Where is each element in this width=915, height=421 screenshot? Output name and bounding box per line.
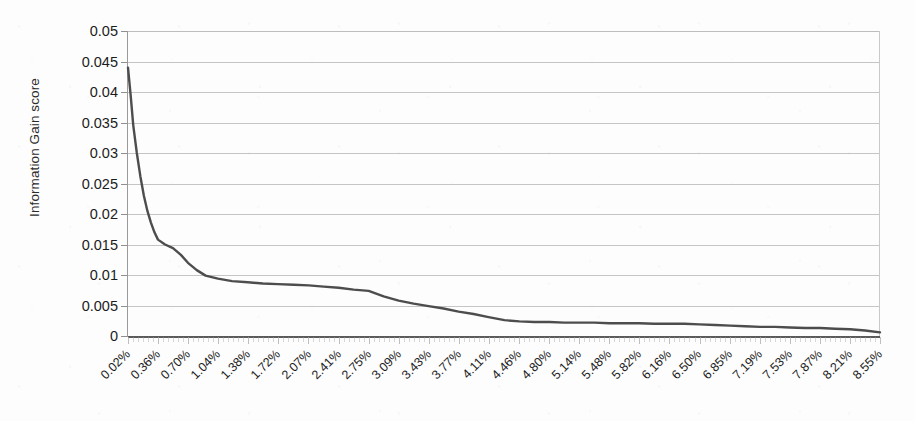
chart-figure: Information Gain score 0 0.005 0.01 0.01… bbox=[0, 0, 915, 421]
x-axis-tick-labels: 0.02%0.36%0.70%1.04%1.38%1.72%2.07%2.41%… bbox=[0, 0, 915, 421]
chart-plot-region: Information Gain score 0 0.005 0.01 0.01… bbox=[0, 0, 915, 421]
